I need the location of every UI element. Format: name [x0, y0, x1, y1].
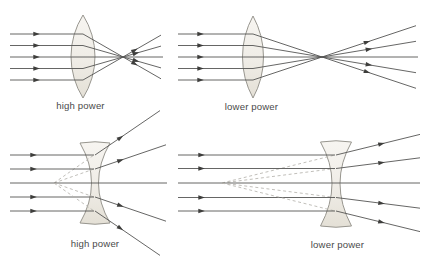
ray-arrowhead [33, 43, 40, 47]
ray-arrowhead [30, 209, 37, 213]
ray-arrowhead [197, 78, 204, 82]
panel-convex-high-power [10, 15, 163, 98]
panel-label-bottom-right: lower power [311, 239, 365, 250]
ray-arrowhead [33, 66, 40, 70]
panel-label-bottom-left: high power [71, 238, 120, 249]
ray-arrowhead [30, 167, 37, 171]
ray-arrowhead [365, 48, 372, 52]
panel-concave-lower-power [178, 134, 420, 231]
virtual-ray-dashed [54, 183, 94, 197]
ray-arrowhead [378, 161, 385, 165]
ray-arrowhead [198, 153, 205, 157]
ray-arrowhead [197, 32, 204, 36]
ray-arrowhead [197, 55, 204, 59]
ray-arrowhead [33, 55, 40, 59]
ray-arrowhead [117, 225, 124, 231]
ray-arrowhead [198, 195, 205, 199]
panel-label-top-right: lower power [225, 101, 279, 112]
ray-arrowhead [117, 136, 124, 142]
ray-arrowhead [363, 69, 370, 73]
virtual-ray-dashed [222, 183, 335, 198]
refracted-ray [253, 41, 416, 68]
virtual-ray-dashed [54, 169, 94, 183]
diverging-ray [336, 158, 420, 169]
ray-arrowhead [365, 62, 372, 66]
ray-arrowhead [33, 78, 40, 82]
lens-power-figure: high power lower power high power lower … [0, 0, 423, 262]
ray-arrowhead [363, 41, 370, 45]
virtual-ray-dashed [222, 183, 335, 211]
ray-arrowhead [378, 142, 385, 146]
ray-arrowhead [197, 66, 204, 70]
panel-concave-high-power [10, 111, 167, 256]
refracted-ray [253, 46, 416, 73]
ray-arrowhead [30, 153, 37, 157]
concave-lens-body [321, 141, 352, 228]
diverging-ray [336, 198, 420, 209]
panel-convex-lower-power [178, 16, 418, 98]
virtual-ray-dashed [222, 155, 335, 183]
ray-arrowhead [117, 203, 124, 207]
refracted-ray [253, 34, 416, 88]
ray-arrowhead [378, 201, 385, 205]
panel-label-top-left: high power [56, 100, 105, 111]
ray-arrowhead [117, 159, 124, 163]
ray-arrowhead [198, 166, 205, 170]
convex-lens-body [71, 15, 95, 98]
ray-arrowhead [198, 209, 205, 213]
figure-canvas: high power lower power high power lower … [0, 0, 423, 262]
ray-arrowhead [197, 43, 204, 47]
ray-arrowhead [378, 219, 385, 223]
ray-arrowhead [132, 58, 139, 62]
refracted-ray [253, 26, 416, 80]
virtual-ray-dashed [222, 169, 335, 184]
ray-arrowhead [33, 32, 40, 36]
ray-arrowhead [30, 195, 37, 199]
diverging-ray [95, 111, 160, 155]
